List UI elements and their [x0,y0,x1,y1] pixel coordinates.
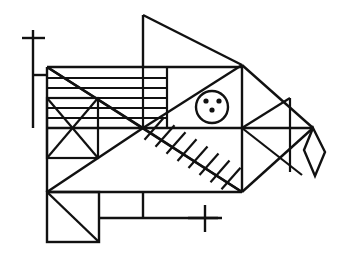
fish-line-drawing: Geometric line drawing of a fish Black-o… [0,0,342,261]
eye-dot-center [209,107,214,112]
eye-dot-right [216,98,221,103]
eye-dot-left [203,98,208,103]
